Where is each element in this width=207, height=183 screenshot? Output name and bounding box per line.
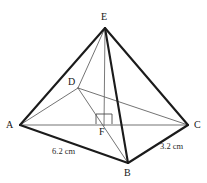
vertex-label-d: D bbox=[68, 77, 75, 87]
geometry-figure: E D A C B F 6.2 cm 3.2 cm bbox=[0, 0, 207, 183]
edge-e-b bbox=[105, 28, 128, 163]
vertex-label-b: B bbox=[124, 168, 131, 178]
figure-canvas bbox=[0, 0, 207, 183]
vertex-label-f: F bbox=[99, 127, 105, 137]
edge-d-e bbox=[78, 28, 105, 88]
vertex-label-e: E bbox=[101, 12, 107, 22]
edge-a-b bbox=[20, 125, 128, 163]
vertex-label-c: C bbox=[194, 120, 201, 130]
altitude-e-f bbox=[104, 28, 105, 126]
vertex-label-a: A bbox=[6, 120, 13, 130]
edge-e-c bbox=[105, 28, 188, 125]
length-label-ab: 6.2 cm bbox=[52, 147, 75, 156]
edge-a-d bbox=[20, 88, 78, 125]
edge-a-e bbox=[20, 28, 105, 125]
length-label-bc: 3.2 cm bbox=[160, 142, 183, 151]
